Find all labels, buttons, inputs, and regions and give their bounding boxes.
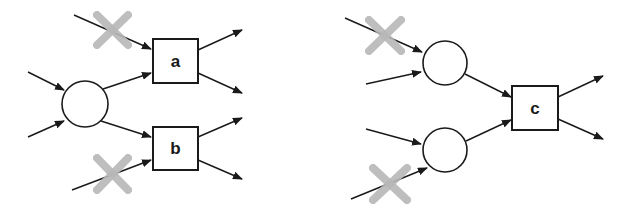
edge-c-output-bottom xyxy=(558,119,603,139)
blocked-cross-icon-bottom-left xyxy=(97,158,128,190)
edge-circle-to-a xyxy=(103,73,151,89)
edge-input-to-lower-circle xyxy=(366,129,421,144)
left-panel: a b xyxy=(28,15,242,190)
edge-b-output-top xyxy=(198,118,242,137)
blocked-cross-icon-bottom-right xyxy=(373,168,407,200)
node-a: a xyxy=(153,39,198,83)
edge-a-output-bottom xyxy=(198,73,242,93)
edge-c-output-top xyxy=(558,76,603,97)
edge-b-output-bottom xyxy=(198,160,242,179)
blocked-cross-icon-top-right xyxy=(369,20,401,51)
right-panel: c xyxy=(345,18,603,200)
edge-a-output-top xyxy=(198,30,242,50)
node-b-label: b xyxy=(170,139,180,158)
node-c: c xyxy=(512,86,558,130)
upper-circle-node xyxy=(423,41,467,85)
edge-input-to-upper-circle xyxy=(366,72,421,84)
node-a-label: a xyxy=(171,52,181,71)
node-c-label: c xyxy=(530,99,539,118)
edge-lower-circle-to-c xyxy=(466,120,511,141)
edge-input-to-left-circle-top xyxy=(28,72,64,90)
edge-input-to-left-circle-bottom xyxy=(28,121,64,137)
edge-circle-to-b xyxy=(101,121,151,137)
lower-circle-node xyxy=(423,128,467,172)
left-circle-node xyxy=(62,81,108,127)
blocked-cross-icon-top-left xyxy=(97,15,128,45)
edge-upper-circle-to-c xyxy=(465,74,511,97)
node-b: b xyxy=(153,127,198,170)
network-diagram: a b xyxy=(0,0,632,212)
